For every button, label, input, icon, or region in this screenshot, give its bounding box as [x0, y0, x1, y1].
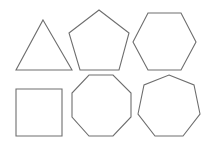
triangle-shape	[16, 20, 72, 70]
pentagon-shape	[69, 10, 129, 70]
shapes-svg	[0, 0, 212, 149]
polygon-diagram	[0, 0, 212, 149]
square-shape	[16, 89, 62, 136]
heptagon-shape	[138, 75, 200, 136]
hexagon-shape	[133, 13, 196, 70]
octagon-shape	[72, 75, 131, 136]
